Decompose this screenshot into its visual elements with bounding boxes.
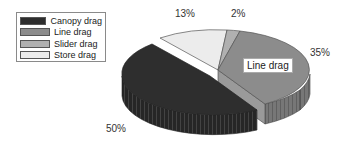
legend-item-canopy: Canopy drag <box>20 15 102 27</box>
legend: Canopy drag Line drag Slider drag Store … <box>16 12 106 62</box>
legend-item-store: Store drag <box>20 50 102 62</box>
legend-label: Canopy drag <box>50 16 102 26</box>
legend-swatch-slider <box>20 40 50 48</box>
label-canopy-pct: 50% <box>106 123 126 134</box>
label-store-pct: 13% <box>175 8 195 19</box>
legend-label: Store drag <box>54 50 96 60</box>
legend-swatch-line <box>20 28 50 36</box>
legend-swatch-store <box>20 51 50 59</box>
legend-label: Slider drag <box>54 39 98 49</box>
label-slider-pct: 2% <box>231 8 245 19</box>
legend-label: Line drag <box>54 27 92 37</box>
label-line-pct: 35% <box>310 47 330 58</box>
legend-item-line: Line drag <box>20 27 102 39</box>
legend-swatch-canopy <box>20 17 46 25</box>
callout-line-drag: Line drag <box>243 58 293 73</box>
legend-item-slider: Slider drag <box>20 38 102 50</box>
